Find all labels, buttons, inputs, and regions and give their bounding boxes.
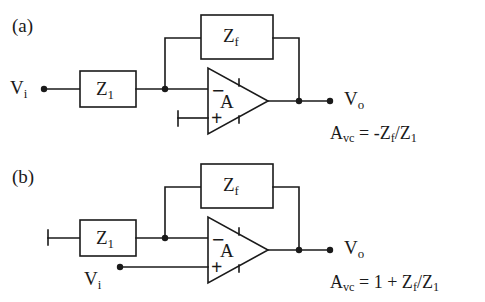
panel-tag-a: (a) — [12, 16, 33, 35]
zf-subscript-b: f — [235, 183, 239, 198]
zf-symbol-a: Z — [223, 25, 235, 46]
impedance-label-z1-b: Z1 — [96, 228, 114, 251]
zf-subscript-a: f — [235, 34, 239, 49]
input-label-sub-a: i — [24, 86, 28, 101]
equation-a-equals: = — [359, 123, 369, 143]
impedance-label-zf-b: Zf — [223, 175, 239, 198]
equation-b-rhs: 1 + Z — [374, 272, 413, 292]
wire-feedback-right-a — [273, 38, 299, 101]
impedance-label-z1-a: Z1 — [96, 79, 114, 102]
equation-b-equals: = — [359, 272, 369, 292]
output-label-sub-a: o — [358, 97, 364, 112]
wire-feedback-left-a — [165, 38, 201, 89]
noninverting-input-sign-b: + — [211, 257, 222, 277]
panel-tag-b: (b) — [12, 167, 34, 186]
figure-opamp-configurations: (a) Vi Z1 Zf A − + Vo Avc = -Zf/Z1 — [0, 0, 485, 302]
z1-symbol-b: Z — [96, 227, 108, 248]
wire-feedback-right-b — [273, 187, 299, 250]
noninverting-input-sign-a: + — [211, 108, 222, 128]
equation-b-lhs: A — [330, 272, 343, 292]
equation-a-lhs-sub: vc — [343, 131, 355, 145]
output-node-dot-b — [296, 247, 302, 253]
input-label-sub-b: i — [98, 277, 102, 292]
z1-subscript-b: 1 — [108, 236, 114, 251]
output-label-a: Vo — [344, 89, 364, 112]
equation-a-rhs-slash: /Z — [395, 123, 411, 143]
z1-symbol-a: Z — [96, 78, 108, 99]
z1-subscript-a: 1 — [108, 87, 114, 102]
equation-a-rhs-sub2: 1 — [411, 131, 417, 145]
output-terminal-dot-b — [327, 247, 333, 253]
equation-a: Avc = -Zf/Z1 — [330, 124, 417, 145]
equation-b-rhs-sub2: 1 — [433, 280, 439, 294]
input-label-a: Vi — [10, 78, 27, 101]
input-label-v-a: V — [10, 77, 24, 98]
output-label-v-b: V — [344, 237, 358, 258]
input-label-v-b: V — [84, 268, 98, 289]
output-label-sub-b: o — [358, 246, 364, 261]
output-label-v-a: V — [344, 88, 358, 109]
output-node-dot-a — [296, 98, 302, 104]
equation-a-rhs: -Z — [374, 123, 391, 143]
wire-feedback-left-b — [165, 187, 201, 238]
input-label-b: Vi — [84, 269, 101, 292]
equation-b-lhs-sub: vc — [343, 280, 355, 294]
inverting-input-sign-a: − — [212, 80, 225, 102]
inverting-input-sign-b: − — [212, 229, 225, 251]
output-label-b: Vo — [344, 238, 364, 261]
panel-a-inverting-amplifier: (a) Vi Z1 Zf A − + Vo Avc = -Zf/Z1 — [0, 0, 485, 151]
impedance-label-zf-a: Zf — [223, 26, 239, 49]
output-terminal-dot-a — [327, 98, 333, 104]
panel-b-noninverting-amplifier: (b) Z1 Zf A − + Vi Vo Avc = 1 + Zf/Z1 — [0, 151, 485, 302]
zf-symbol-b: Z — [223, 174, 235, 195]
equation-a-lhs: A — [330, 123, 343, 143]
equation-b-rhs-slash: /Z — [417, 272, 433, 292]
equation-b: Avc = 1 + Zf/Z1 — [330, 273, 439, 294]
